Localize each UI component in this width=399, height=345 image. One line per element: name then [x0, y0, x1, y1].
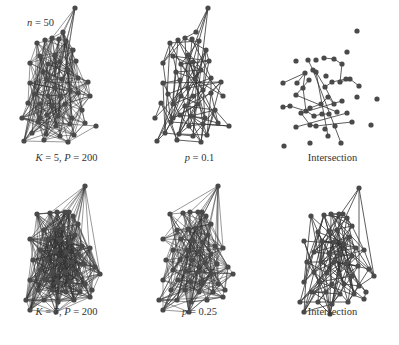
- node: [188, 279, 193, 284]
- node: [43, 131, 48, 136]
- node: [174, 297, 179, 302]
- node: [29, 130, 34, 135]
- node: [185, 226, 190, 231]
- figure: n = 50 K = 5, P = 200 p = 0.1 Intersecti…: [0, 0, 399, 345]
- node: [85, 79, 90, 84]
- node: [27, 277, 32, 282]
- node: [218, 79, 223, 84]
- node: [69, 115, 74, 120]
- node: [92, 264, 97, 269]
- node: [34, 211, 39, 216]
- node: [45, 61, 50, 66]
- node: [280, 104, 285, 109]
- node: [210, 289, 215, 294]
- node: [293, 124, 298, 129]
- node: [62, 101, 67, 106]
- graph-k7: [0, 172, 133, 344]
- edge: [72, 96, 90, 118]
- panel-label-p01: p = 0.1: [133, 152, 266, 163]
- node: [337, 291, 342, 296]
- node: [160, 236, 165, 241]
- panel-p025: p = 0.25: [133, 172, 266, 344]
- node: [97, 271, 102, 276]
- node: [356, 83, 361, 88]
- node: [281, 143, 286, 148]
- node: [59, 76, 64, 81]
- node: [67, 121, 72, 126]
- node: [208, 221, 213, 226]
- node: [313, 69, 318, 74]
- node: [328, 211, 333, 216]
- node: [208, 251, 213, 256]
- node: [309, 289, 314, 294]
- panel-label-k7: K = 7, P = 200: [0, 306, 133, 317]
- node: [158, 100, 163, 105]
- node: [160, 277, 165, 282]
- node: [331, 101, 336, 106]
- node: [294, 80, 299, 85]
- node: [167, 211, 172, 216]
- node: [298, 110, 303, 115]
- node: [69, 259, 74, 264]
- node: [62, 209, 67, 214]
- panel-label-intersection-bottom: Intersection: [266, 306, 399, 317]
- node: [45, 93, 50, 98]
- edge: [340, 64, 342, 82]
- node: [202, 115, 207, 120]
- node: [336, 271, 341, 276]
- node: [21, 138, 26, 143]
- node: [163, 257, 168, 262]
- node: [177, 257, 182, 262]
- node: [177, 112, 182, 117]
- node: [170, 247, 175, 252]
- node: [25, 100, 30, 105]
- node: [174, 137, 179, 142]
- node: [167, 40, 172, 45]
- node: [173, 69, 178, 74]
- node: [79, 243, 84, 248]
- node: [326, 250, 331, 255]
- node: [214, 261, 219, 266]
- node: [321, 212, 326, 217]
- node: [345, 299, 350, 304]
- node: [293, 92, 298, 97]
- node: [60, 29, 65, 34]
- node: [318, 101, 323, 106]
- node: [196, 289, 201, 294]
- node: [57, 133, 62, 138]
- node: [313, 57, 318, 62]
- node: [203, 47, 208, 52]
- node: [304, 259, 309, 264]
- node: [280, 80, 285, 85]
- panel-k5: K = 5, P = 200: [0, 0, 133, 172]
- node: [54, 209, 59, 214]
- node: [346, 234, 351, 239]
- node: [189, 36, 194, 41]
- node: [301, 279, 306, 284]
- node: [63, 38, 68, 43]
- node: [55, 299, 60, 304]
- node: [200, 87, 205, 92]
- node: [307, 140, 312, 145]
- edge: [304, 216, 311, 282]
- edge: [190, 186, 218, 212]
- node: [343, 261, 348, 266]
- node: [168, 287, 173, 292]
- node: [49, 287, 54, 292]
- node: [306, 77, 311, 82]
- node: [215, 120, 220, 125]
- node: [40, 69, 45, 74]
- node: [57, 237, 62, 242]
- edge: [218, 186, 223, 248]
- node: [190, 93, 195, 98]
- node: [344, 110, 349, 115]
- node: [82, 120, 87, 125]
- node: [319, 111, 324, 116]
- node: [195, 101, 200, 106]
- node: [208, 271, 213, 276]
- node: [174, 227, 179, 232]
- node: [75, 271, 80, 276]
- node: [305, 57, 310, 62]
- node: [196, 38, 201, 43]
- node: [165, 91, 170, 96]
